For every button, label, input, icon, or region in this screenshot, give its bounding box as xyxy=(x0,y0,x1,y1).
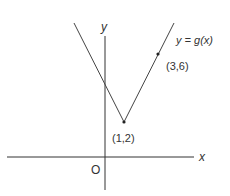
vertex-point xyxy=(122,120,125,123)
graph-canvas: y x O y = g(x) (3,6) (1,2) xyxy=(0,0,230,196)
y-axis-label: y xyxy=(100,20,108,34)
function-label: y = g(x) xyxy=(175,34,213,46)
function-curve xyxy=(74,23,174,122)
origin-label: O xyxy=(91,163,100,177)
point-3-6 xyxy=(156,52,159,55)
point-label-3-6: (3,6) xyxy=(166,60,189,72)
x-axis-label: x xyxy=(198,150,206,164)
vertex-label: (1,2) xyxy=(112,132,135,144)
